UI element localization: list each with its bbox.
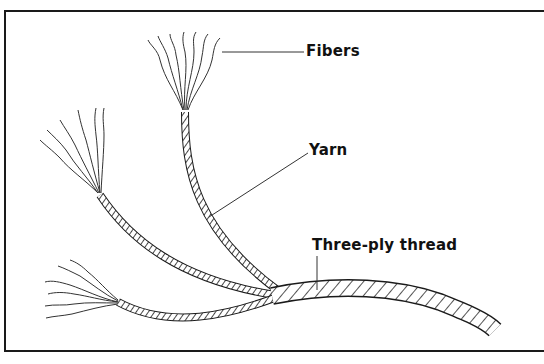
three-ply-thread [272,288,495,330]
yarn-strands [100,112,280,317]
fibers-middle-icon [40,108,104,193]
fibers-bottom-icon [45,260,118,318]
yarn-leader-line [209,153,308,217]
fibers-top-icon [148,32,220,110]
yarn-label: Yarn [309,141,347,159]
three-ply-thread-label: Three-ply thread [312,236,457,254]
fibers-label: Fibers [306,42,360,60]
